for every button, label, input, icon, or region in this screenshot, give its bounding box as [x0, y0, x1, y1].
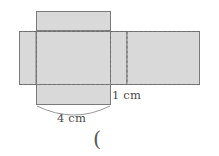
face-bottom-flap — [37, 85, 111, 105]
width-dimension-label: 4 cm — [57, 112, 86, 124]
net-diagram-svg — [0, 0, 219, 156]
face-right-narrow — [111, 32, 128, 85]
face-top-flap — [37, 12, 111, 31]
net-diagram-figure: 4 cm 1 cm ( — [0, 0, 219, 156]
face-right-wide — [127, 32, 200, 85]
depth-dimension-label: 1 cm — [112, 89, 141, 101]
trailing-parenthesis: ( — [93, 128, 101, 150]
net-faces-group — [20, 12, 200, 105]
face-left — [20, 32, 37, 85]
face-center — [37, 32, 111, 85]
